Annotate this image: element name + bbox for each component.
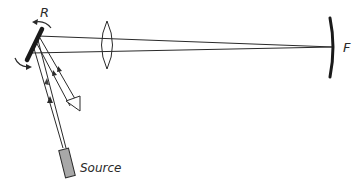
rotation-arrowhead-top-icon (32, 19, 38, 25)
optical-diagram: F R Source (0, 0, 361, 187)
fixed-mirror-label: F (343, 40, 351, 55)
source-rays (33, 38, 78, 148)
ray-source-1 (33, 45, 63, 148)
rotating-mirror-label: R (40, 5, 49, 20)
lens (102, 21, 113, 69)
lower-beam (31, 47, 333, 53)
source-label: Source (80, 161, 121, 175)
rotating-mirror-R (27, 29, 42, 60)
source (59, 148, 75, 178)
rotation-arrowhead-bottom-icon (26, 64, 32, 70)
ray-source-2 (38, 40, 66, 148)
light-beams (31, 36, 333, 53)
arrow-down-icon (57, 66, 62, 72)
upper-beam (38, 36, 333, 47)
arrow-down-icon (52, 70, 57, 76)
output-arrow-icon (66, 96, 80, 111)
